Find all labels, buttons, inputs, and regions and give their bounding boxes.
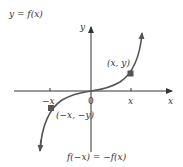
y-axis-label: y xyxy=(79,22,86,32)
point-pos-label: (x, y) xyxy=(107,58,130,68)
odd-function-diagram: y = f(x) y x 0 x −x (x, y) (−x, −y) f(−x… xyxy=(0,0,183,167)
function-curve-start-arrow xyxy=(40,140,41,151)
origin-label: 0 xyxy=(88,96,94,106)
caption-label: f(−x) = −f(x) xyxy=(66,152,127,162)
tick-pos-label: x xyxy=(128,96,133,106)
point-neg-label: (−x, −y) xyxy=(56,110,94,120)
title-label: y = f(x) xyxy=(8,9,43,19)
x-axis-label: x xyxy=(168,96,173,106)
tick-neg-label: −x xyxy=(42,96,55,106)
point-pos xyxy=(128,71,134,77)
